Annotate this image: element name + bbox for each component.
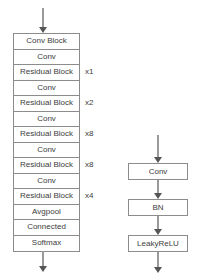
arrow-shaft <box>157 135 159 157</box>
stack-row: Residual Block x8 <box>14 158 79 174</box>
stack-row: Residual Block x2 <box>14 96 79 112</box>
stack-row: Conv Block <box>14 34 79 50</box>
stack-row: Residual Block x1 <box>14 65 79 81</box>
stack-row-repeat-label: x4 <box>85 192 93 200</box>
arrow-head-icon <box>154 229 162 235</box>
stack-row-label: Residual Block <box>20 68 73 76</box>
network-architecture-diagram: Conv Block Conv Residual Block x1 Conv R… <box>0 0 202 277</box>
detail-box-conv: Conv <box>128 163 188 180</box>
stack-row: Conv <box>14 143 79 159</box>
stack-row-label: Conv <box>37 84 56 92</box>
stack-row-label: Avgpool <box>32 208 61 216</box>
backbone-stack: Conv Block Conv Residual Block x1 Conv R… <box>13 33 80 252</box>
detail-box-label: BN <box>152 204 163 212</box>
stack-row-repeat-label: x1 <box>85 68 93 76</box>
stack-row-label: Conv <box>37 146 56 154</box>
stack-row-label: Connected <box>27 223 66 231</box>
detail-box-label: LeakyReLU <box>137 240 179 248</box>
stack-row: Softmax <box>14 236 79 252</box>
stack-row-label: Residual Block <box>20 192 73 200</box>
stack-row-repeat-label: x8 <box>85 130 93 138</box>
arrow-head-icon <box>39 266 47 272</box>
stack-row: Connected <box>14 220 79 236</box>
stack-row-label: Residual Block <box>20 130 73 138</box>
detail-box-bn: BN <box>128 199 188 216</box>
stack-row: Conv <box>14 174 79 190</box>
stack-row: Conv <box>14 50 79 66</box>
arrow-head-icon <box>154 193 162 199</box>
stack-row: Residual Block x8 <box>14 127 79 143</box>
arrow-shaft <box>42 8 44 27</box>
stack-row-repeat-label: x2 <box>85 99 93 107</box>
stack-row-label: Conv Block <box>26 37 66 45</box>
stack-row-label: Conv <box>37 177 56 185</box>
stack-row: Conv <box>14 81 79 97</box>
arrow-shaft <box>157 180 159 193</box>
stack-row: Conv <box>14 112 79 128</box>
stack-row-label: Residual Block <box>20 99 73 107</box>
detail-box-leakyrelu: LeakyReLU <box>128 235 188 252</box>
stack-row: Residual Block x4 <box>14 189 79 205</box>
stack-row: Avgpool <box>14 205 79 221</box>
arrow-head-icon <box>154 267 162 273</box>
arrow-shaft <box>157 252 159 267</box>
stack-row-label: Residual Block <box>20 161 73 169</box>
arrow-shaft <box>157 216 159 229</box>
stack-row-repeat-label: x8 <box>85 161 93 169</box>
detail-box-label: Conv <box>149 168 168 176</box>
stack-row-label: Conv <box>37 53 56 61</box>
stack-row-label: Conv <box>37 115 56 123</box>
arrow-shaft <box>42 251 44 266</box>
stack-row-label: Softmax <box>32 239 61 247</box>
